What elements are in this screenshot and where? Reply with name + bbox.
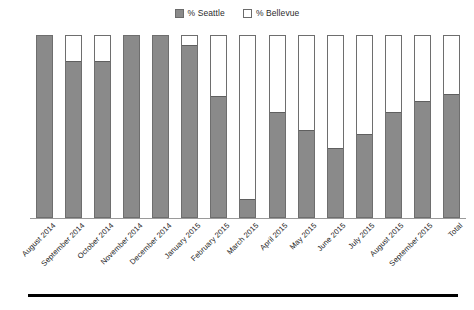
bar-segment-seattle [240, 199, 255, 217]
chart-legend: % Seattle % Bellevue [0, 8, 474, 18]
bar-segment-seattle [153, 36, 168, 217]
bar-column[interactable] [152, 35, 169, 218]
legend-entry-seattle[interactable]: % Seattle [175, 8, 225, 18]
plot-area [36, 35, 460, 218]
bar-segment-seattle [386, 112, 401, 217]
bar-segment-seattle [95, 61, 110, 217]
bar-column[interactable] [36, 35, 53, 218]
bar-segment-seattle [211, 96, 226, 217]
legend-entry-bellevue[interactable]: % Bellevue [243, 8, 300, 18]
bar-segment-seattle [37, 36, 52, 217]
bar-group [36, 35, 460, 218]
bar-column[interactable] [327, 35, 344, 218]
x-axis-labels: August 2014September 2014October 2014Nov… [36, 221, 460, 291]
bar-segment-seattle [182, 45, 197, 217]
stacked-bar-chart: % Seattle % Bellevue August 2014Septembe… [0, 0, 474, 310]
bar-column[interactable] [239, 35, 256, 218]
bar-segment-seattle [444, 94, 459, 217]
bar-column[interactable] [94, 35, 111, 218]
bar-column[interactable] [210, 35, 227, 218]
bar-column[interactable] [298, 35, 315, 218]
legend-label-seattle: % Seattle [188, 8, 225, 18]
legend-swatch-seattle-icon [175, 9, 184, 18]
legend-label-bellevue: % Bellevue [256, 8, 300, 18]
x-axis-label: June 2015 [315, 221, 347, 253]
bar-segment-seattle [124, 36, 139, 217]
x-axis-label: Total [446, 221, 464, 239]
bar-segment-seattle [66, 61, 81, 217]
bar-column[interactable] [443, 35, 460, 218]
bar-column[interactable] [123, 35, 140, 218]
bar-column[interactable] [356, 35, 373, 218]
bar-column[interactable] [65, 35, 82, 218]
bar-segment-seattle [415, 101, 430, 217]
bar-column[interactable] [269, 35, 286, 218]
bar-column[interactable] [385, 35, 402, 218]
x-axis-label: April 2015 [258, 221, 289, 252]
bar-segment-seattle [357, 134, 372, 217]
bottom-divider [28, 294, 458, 297]
bar-column[interactable] [181, 35, 198, 218]
legend-swatch-bellevue-icon [243, 9, 252, 18]
bar-segment-seattle [299, 130, 314, 217]
x-axis-label: May 2015 [288, 221, 319, 252]
x-axis-baseline [30, 218, 466, 219]
bar-column[interactable] [414, 35, 431, 218]
bar-segment-seattle [270, 112, 285, 217]
bar-segment-seattle [328, 148, 343, 217]
